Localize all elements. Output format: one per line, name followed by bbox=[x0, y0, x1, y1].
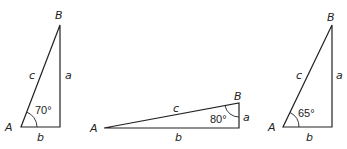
triangle-1-side-c: c bbox=[29, 69, 35, 82]
right-triangles-diagram: A B c a b 70° A B c a b 80° A B c a b 65… bbox=[0, 0, 347, 149]
triangle-1-side-a: a bbox=[65, 69, 72, 82]
triangle-2-vertex-b: B bbox=[234, 90, 242, 103]
triangle-3: A B c a b 65° bbox=[267, 11, 343, 144]
triangle-1-vertex-b: B bbox=[55, 9, 63, 22]
triangle-2-vertex-a: A bbox=[89, 122, 98, 135]
triangle-2-angle-arc bbox=[225, 106, 239, 118]
triangle-1-side-b: b bbox=[37, 131, 44, 144]
triangle-2-side-c: c bbox=[173, 102, 179, 115]
triangle-3-vertex-a: A bbox=[267, 121, 276, 134]
triangle-3-side-b: b bbox=[306, 131, 313, 144]
triangle-3-angle-label: 65° bbox=[298, 107, 315, 119]
triangle-2-side-b: b bbox=[175, 131, 182, 144]
triangle-2-side-a: a bbox=[243, 111, 250, 124]
triangle-1-angle-label: 70° bbox=[35, 104, 52, 116]
triangle-3-vertex-b: B bbox=[327, 11, 335, 24]
triangle-2: A B c a b 80° bbox=[89, 90, 250, 144]
triangle-2-angle-label: 80° bbox=[210, 113, 227, 125]
triangle-3-side-a: a bbox=[336, 69, 343, 82]
triangle-1-vertex-a: A bbox=[4, 121, 13, 134]
triangle-3-side-c: c bbox=[296, 69, 302, 82]
triangle-1: A B c a b 70° bbox=[4, 9, 72, 144]
